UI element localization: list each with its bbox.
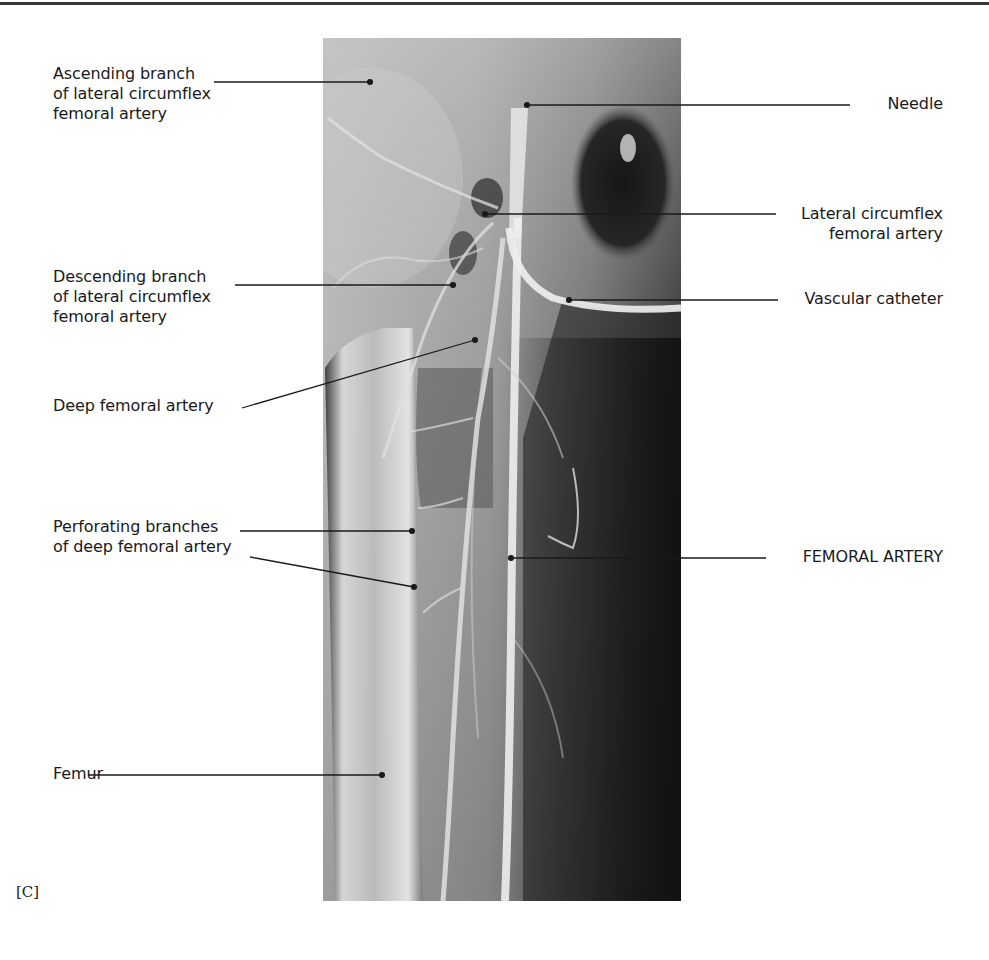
label-perforating-branches: Perforating branches of deep femoral art… xyxy=(53,517,232,557)
label-deep-femoral-artery: Deep femoral artery xyxy=(53,396,214,416)
panel-letter: [C] xyxy=(16,883,39,901)
label-needle: Needle xyxy=(887,94,943,114)
arteriogram-image xyxy=(323,38,681,901)
label-lateral-circumflex-femoral-artery: Lateral circumflex femoral artery xyxy=(801,204,943,244)
label-femur: Femur xyxy=(53,764,103,784)
label-ascending-branch: Ascending branch of lateral circumflex f… xyxy=(53,64,211,124)
label-femoral-artery: FEMORAL ARTERY xyxy=(803,547,943,567)
label-descending-branch: Descending branch of lateral circumflex … xyxy=(53,267,211,327)
label-vascular-catheter: Vascular catheter xyxy=(804,289,943,309)
top-rule xyxy=(0,2,989,5)
